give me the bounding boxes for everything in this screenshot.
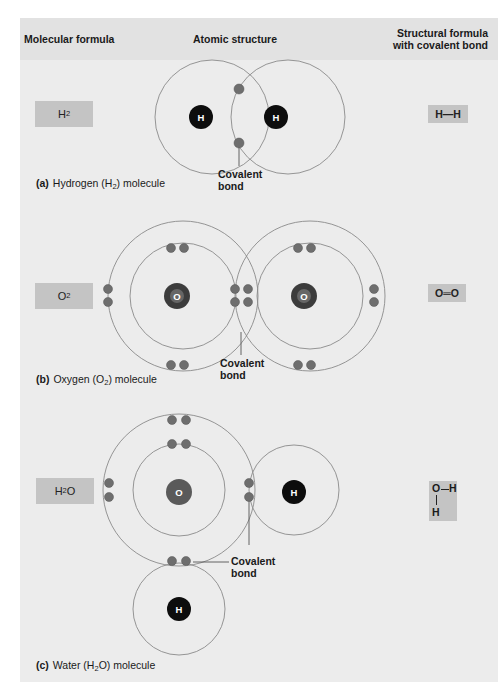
- caption-o2: (b)Oxygen (O2) molecule: [36, 373, 157, 385]
- structural-formula-h2: H—H: [428, 105, 468, 123]
- structural-formula-o2: O═O: [428, 284, 466, 302]
- caption-h2: (a)Hydrogen (H2) molecule: [36, 177, 165, 189]
- bond-label-o2: Covalent bond: [220, 357, 264, 381]
- svg-text:O: O: [300, 291, 307, 302]
- single-bond-vertical: [436, 495, 437, 505]
- svg-text:O: O: [173, 291, 180, 302]
- svg-text:H: H: [198, 112, 205, 123]
- single-bond-horizontal: [441, 489, 449, 490]
- bond-label-h2: Covalent bond: [218, 168, 262, 192]
- bond-label-h2o: Covalent bond: [231, 555, 275, 579]
- svg-text:H: H: [176, 604, 183, 615]
- formula-box-h2o: H2O: [36, 478, 94, 504]
- structural-formula-h2o: O H H: [429, 481, 457, 521]
- svg-text:H: H: [291, 487, 298, 498]
- svg-text:O: O: [175, 487, 182, 498]
- formula-box-o2: O2: [35, 283, 93, 309]
- formula-box-h2: H2: [35, 101, 93, 127]
- caption-h2o: (c)Water (H2O) molecule: [36, 659, 155, 671]
- svg-text:H: H: [273, 112, 280, 123]
